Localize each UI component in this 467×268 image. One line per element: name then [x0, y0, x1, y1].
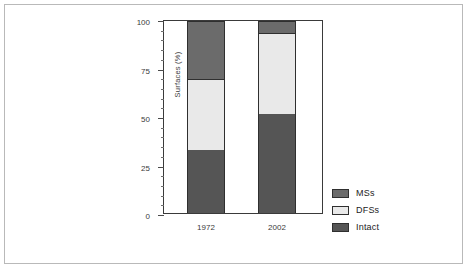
y-tick-label-50: 50 [141, 115, 150, 124]
y-axis-title: Surfaces (%) [173, 15, 182, 135]
bar-1972-segment-intact[interactable] [187, 150, 225, 213]
legend-label-intact: Intact [356, 222, 379, 232]
bar-1972-segment-dfss[interactable] [187, 79, 225, 150]
y-tick-label-25: 25 [141, 163, 150, 172]
y-minor-tick-40 [161, 137, 165, 138]
y-tick-75: 75 [158, 70, 164, 71]
y-minor-tick-90 [161, 40, 165, 41]
y-tick-label-0: 0 [146, 212, 150, 221]
y-minor-tick-20 [161, 176, 165, 177]
bar-2002-segment-dfss[interactable] [258, 33, 296, 115]
y-tick-50: 50 [158, 118, 164, 119]
y-minor-tick-70 [161, 79, 165, 80]
figure-canvas: Surfaces (%) 100 75 50 25 0 [0, 0, 467, 268]
legend-label-mss: MSs [356, 188, 375, 198]
y-minor-tick-85 [161, 50, 165, 51]
y-minor-tick-80 [161, 60, 165, 61]
y-tick-label-100: 100 [137, 18, 150, 27]
legend-item-dfss[interactable]: DFSs [332, 205, 379, 215]
chart-legend: MSs DFSs Intact [332, 188, 379, 232]
y-minor-tick-15 [161, 186, 165, 187]
y-minor-tick-60 [161, 99, 165, 100]
bar-2002-segment-mss[interactable] [258, 21, 296, 33]
legend-label-dfss: DFSs [356, 205, 379, 215]
bar-1972[interactable]: 1972 [187, 21, 225, 213]
y-tick-0: 0 [158, 215, 164, 216]
bar-2002[interactable]: 2002 [258, 21, 296, 213]
y-tick-100: 100 [158, 21, 164, 22]
x-tick-label-2002: 2002 [268, 223, 286, 232]
y-tick-label-75: 75 [141, 66, 150, 75]
y-minor-tick-10 [161, 196, 165, 197]
legend-swatch-dfss [332, 206, 349, 215]
y-minor-tick-35 [161, 147, 165, 148]
plot-area: Surfaces (%) 100 75 50 25 0 [163, 20, 323, 214]
y-minor-tick-95 [161, 31, 165, 32]
bar-2002-segment-intact[interactable] [258, 114, 296, 213]
y-minor-tick-45 [161, 128, 165, 129]
bar-1972-segment-mss[interactable] [187, 21, 225, 79]
y-minor-tick-65 [161, 89, 165, 90]
legend-item-intact[interactable]: Intact [332, 222, 379, 232]
y-minor-tick-55 [161, 108, 165, 109]
legend-item-mss[interactable]: MSs [332, 188, 379, 198]
y-minor-tick-5 [161, 205, 165, 206]
legend-swatch-intact [332, 223, 349, 232]
x-tick-label-1972: 1972 [197, 223, 215, 232]
legend-swatch-mss [332, 189, 349, 198]
y-minor-tick-30 [161, 157, 165, 158]
y-tick-25: 25 [158, 167, 164, 168]
